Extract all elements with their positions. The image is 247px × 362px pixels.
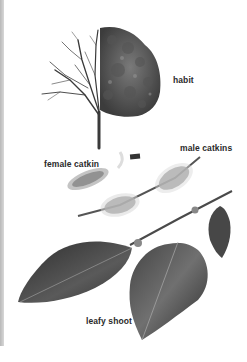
label-female-catkin: female catkin	[44, 159, 99, 169]
tree-habit	[42, 27, 160, 148]
label-leafy-shoot: leafy shoot	[86, 316, 132, 326]
label-male-catkins: male catkins	[180, 143, 232, 153]
botanical-plate: habit female catkin male catkins leafy s…	[0, 0, 247, 362]
label-habit: habit	[173, 75, 194, 85]
illustration-art	[0, 0, 247, 362]
